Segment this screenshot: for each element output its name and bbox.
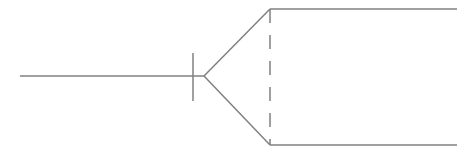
diagram-canvas xyxy=(0,0,476,152)
fork-lower-branch xyxy=(204,76,270,145)
fork-upper-branch xyxy=(204,9,270,76)
connector-diagram xyxy=(0,0,476,152)
